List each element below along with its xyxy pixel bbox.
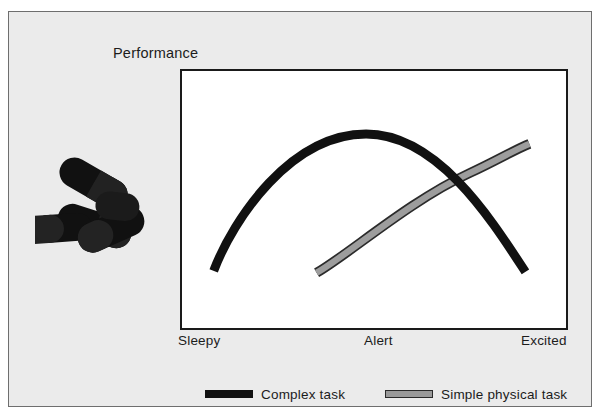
legend-entry-simple-physical-task: Simple physical task [385,384,567,404]
x-axis-tick-sleepy: Sleepy [178,333,220,348]
legend-swatch-simple-physical-task [385,390,433,398]
y-axis-caption: Performance [113,45,198,61]
x-axis-tick-alert: Alert [364,333,393,348]
legend-label-simple-physical-task: Simple physical task [441,387,567,402]
pills-illustration [35,144,153,262]
curve-complex-task [214,134,526,272]
legend: Complex task Simple physical task [9,384,605,408]
plot-area [180,69,568,330]
curves-svg [182,71,566,328]
figure-root: Performance Sleepy Alert Excited [0,0,605,419]
x-axis-tick-excited: Excited [521,333,567,348]
capsules-icon [35,144,153,262]
figure-panel: Performance Sleepy Alert Excited [8,11,592,407]
legend-entry-complex-task: Complex task [205,384,345,404]
legend-swatch-complex-task [205,390,253,398]
legend-label-complex-task: Complex task [261,387,345,402]
